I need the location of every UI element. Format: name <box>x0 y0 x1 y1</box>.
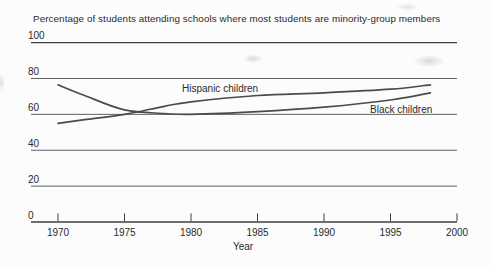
y-axis-tick-label: 0 <box>28 210 34 221</box>
series-label-black-children: Black children <box>370 104 432 115</box>
x-axis-tick-label: 1980 <box>180 227 203 238</box>
x-axis-tick-label: 1995 <box>379 227 402 238</box>
x-axis-tick-label: 1970 <box>47 227 70 238</box>
scanned-chart-page: Percentage of students attending schools… <box>0 0 492 266</box>
line-chart: 0204060801001970197519801985199019952000… <box>0 0 492 266</box>
y-axis-tick-label: 20 <box>28 174 40 185</box>
x-axis-tick-label: 1975 <box>113 227 136 238</box>
y-axis-tick-label: 100 <box>28 30 45 41</box>
y-axis-tick-label: 60 <box>28 102 40 113</box>
series-label-hispanic-children: Hispanic children <box>182 83 258 94</box>
x-axis-title: Year <box>233 241 254 252</box>
x-axis-tick-label: 1990 <box>313 227 336 238</box>
x-axis-tick-label: 2000 <box>446 227 469 238</box>
y-axis-tick-label: 40 <box>28 138 40 149</box>
y-axis-tick-label: 80 <box>28 66 40 77</box>
x-axis-tick-label: 1985 <box>246 227 269 238</box>
